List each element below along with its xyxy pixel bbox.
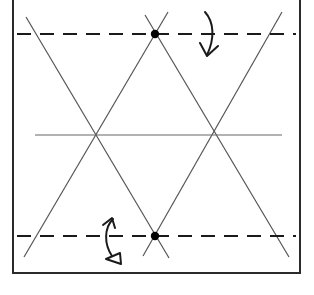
- origami-diagram: [0, 0, 314, 295]
- background: [0, 0, 314, 295]
- top-reference-dot: [151, 30, 159, 38]
- bottom-reference-dot: [151, 232, 159, 240]
